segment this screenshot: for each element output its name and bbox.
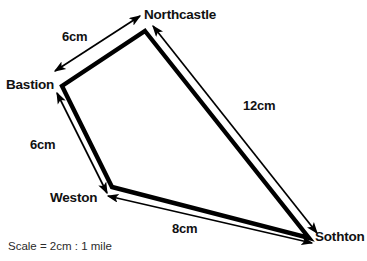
scale-note: Scale = 2cm : 1 mile	[8, 241, 112, 253]
place-label-northcastle: Northcastle	[144, 8, 216, 22]
dimension-label-northcastle-sothton: 12cm	[243, 99, 275, 112]
dimension-label-bastion-weston: 6cm	[30, 138, 55, 151]
dimension-label-bastion-northcastle: 6cm	[62, 30, 87, 43]
route-outline	[62, 31, 309, 238]
place-label-bastion: Bastion	[6, 78, 54, 92]
place-label-sothton: Sothton	[315, 230, 365, 244]
dimension-arrow-bastion-weston	[57, 93, 107, 193]
place-label-weston: Weston	[50, 191, 97, 205]
diagram-canvas: Northcastle Bastion Weston Sothton 6cm 6…	[0, 0, 367, 261]
dimension-label-weston-sothton: 8cm	[172, 222, 197, 235]
